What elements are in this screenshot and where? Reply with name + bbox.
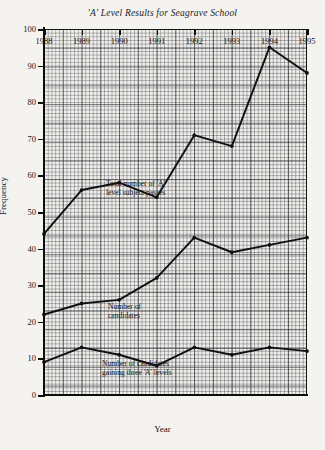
series-label-total-passes: Total number of 'A' level subject passes [106,179,165,198]
y-tick-label: 10 [28,354,37,363]
y-tick-label: 50 [28,208,37,217]
series-line-1 [44,238,307,315]
data-point [155,276,159,280]
y-tick-label: 0 [32,391,36,400]
data-point [268,243,272,247]
data-point [230,144,234,148]
data-point [268,45,272,49]
x-tick-mark [307,29,309,35]
data-point [305,349,309,353]
chart-title: 'A' Level Results for Seagrave School [0,8,325,18]
chart-figure: 'A' Level Results for Seagrave School 01… [0,0,325,450]
y-tick-label: 30 [28,281,37,290]
data-point [80,302,84,306]
series-label-candidates: Number of candidates [108,302,141,321]
y-axis-line [43,27,45,397]
data-point [305,236,309,240]
data-point [305,71,309,75]
y-tick-label: 80 [28,98,37,107]
y-axis-title: Frequency [0,177,8,215]
y-tick-label: 40 [28,244,37,253]
data-point [192,133,196,137]
data-point [192,236,196,240]
data-point [230,353,234,357]
y-tick-label: 100 [23,25,36,34]
x-axis-title: Year [0,424,325,434]
series-label-three-a-levels: Number of candidates gaining three 'A' l… [102,359,172,378]
plot-area: 0102030405060708090100 19881989199019911… [44,29,307,395]
data-point [192,346,196,350]
y-tick-label: 70 [28,135,37,144]
y-tick-label: 90 [28,61,37,70]
data-point [230,250,234,254]
y-tick-label: 20 [28,318,37,327]
series-lines [44,29,307,395]
data-point [117,353,121,357]
data-point [80,346,84,350]
data-point [268,346,272,350]
y-tick-label: 60 [28,171,37,180]
x-axis-line [43,394,308,396]
series-line-0 [44,47,307,234]
data-point [80,188,84,192]
series-line-2 [44,347,307,365]
